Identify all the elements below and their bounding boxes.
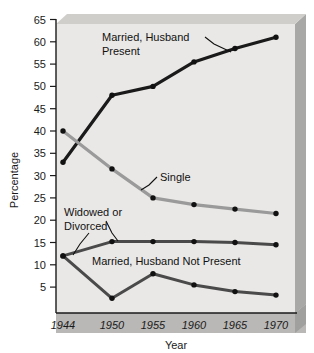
data-point (109, 93, 114, 98)
data-point (273, 292, 278, 297)
plot-panel (56, 24, 295, 313)
y-tick-label: 5 (40, 281, 46, 293)
data-point (273, 211, 278, 216)
y-tick-label: 40 (34, 125, 46, 137)
data-point (191, 59, 196, 64)
data-point (109, 166, 114, 171)
y-tick-label: 50 (34, 80, 46, 92)
y-tick-label: 65 (34, 14, 46, 26)
x-tick-label: 1970 (264, 319, 289, 331)
x-tick-label: 1960 (182, 319, 207, 331)
data-point (232, 240, 237, 245)
y-tick-label: 45 (34, 103, 46, 115)
label-widowed-or-divorced-line2: Divorced (64, 220, 107, 232)
y-axis-title: Percentage (8, 152, 20, 208)
y-tick-label: 55 (34, 58, 46, 70)
data-point (191, 282, 196, 287)
panel-top-bevel (56, 14, 306, 24)
data-point (191, 202, 196, 207)
data-point (150, 239, 155, 244)
x-tick-label: 1944 (51, 319, 75, 331)
x-tick-label: 1965 (223, 319, 248, 331)
y-tick-label: 20 (34, 214, 46, 226)
data-point (150, 271, 155, 276)
data-point (191, 239, 196, 244)
y-tick-label: 15 (34, 237, 46, 249)
label-single: Single (160, 171, 191, 183)
data-point (150, 195, 155, 200)
y-tick-label: 30 (34, 170, 46, 182)
data-point (109, 296, 114, 301)
y-tick-label: 60 (34, 36, 46, 48)
data-point (273, 242, 278, 247)
chart-container: 65 60 55 50 45 40 35 30 25 20 15 10 5 19… (0, 0, 314, 353)
data-point (273, 35, 278, 40)
label-married-husband-present-line1: Married, Husband (102, 31, 189, 43)
data-point (60, 128, 65, 133)
data-point (109, 239, 114, 244)
data-point (232, 46, 237, 51)
data-point (232, 289, 237, 294)
panel-shadow-right (295, 14, 306, 313)
x-tick-label: 1950 (100, 319, 125, 331)
x-tick-label: 1955 (141, 319, 166, 331)
y-tick-labels: 65 60 55 50 45 40 35 30 25 20 15 10 5 (34, 14, 46, 294)
label-married-husband-present-line2: Present (102, 45, 140, 57)
y-tick-marks (50, 20, 56, 288)
y-tick-label: 10 (34, 259, 46, 271)
y-tick-label: 25 (34, 192, 46, 204)
x-axis-title: Year (165, 339, 188, 351)
data-point (60, 160, 65, 165)
data-point (232, 206, 237, 211)
line-chart: 65 60 55 50 45 40 35 30 25 20 15 10 5 19… (0, 0, 314, 353)
y-tick-label: 35 (34, 147, 46, 159)
data-point (60, 253, 65, 258)
data-point (150, 84, 155, 89)
label-married-husband-not-present: Married, Husband Not Present (92, 255, 241, 267)
label-widowed-or-divorced-line1: Widowed or (64, 206, 122, 218)
